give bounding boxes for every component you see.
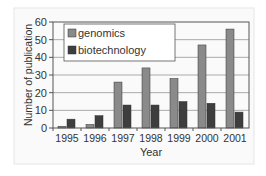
- y-tick-label: 30: [35, 69, 47, 81]
- y-tick-label: 50: [35, 34, 47, 46]
- legend-label-biotechnology: biotechnology: [78, 44, 146, 56]
- legend-label-genomics: genomics: [78, 27, 126, 39]
- bar-biotechnology-1996: [95, 116, 103, 128]
- x-tick-label: 1997: [111, 132, 135, 144]
- bar-genomics-1997: [114, 82, 122, 128]
- bar-biotechnology-1998: [151, 105, 159, 128]
- x-tick-label: 1998: [139, 132, 163, 144]
- bar-biotechnology-1995: [67, 119, 75, 128]
- y-tick-label: 60: [35, 16, 47, 28]
- x-tick-label: 1999: [167, 132, 191, 144]
- bar-biotechnology-1999: [179, 102, 187, 129]
- bar-genomics-1999: [170, 79, 178, 128]
- bar-genomics-2000: [198, 45, 206, 128]
- bar-genomics-1998: [142, 68, 150, 128]
- legend-swatch-genomics: [68, 29, 76, 37]
- y-tick-label: 0: [41, 122, 47, 134]
- x-tick-label: 1995: [55, 132, 79, 144]
- bar-biotechnology-2001: [235, 112, 243, 128]
- bar-genomics-2001: [226, 29, 234, 128]
- y-axis-label: Number of publication: [22, 24, 34, 126]
- x-tick-label: 1996: [83, 132, 107, 144]
- x-tick-label: 2001: [223, 132, 247, 144]
- bar-biotechnology-2000: [207, 103, 215, 128]
- bar-genomics-1996: [86, 124, 94, 128]
- y-tick-label: 10: [35, 104, 47, 116]
- x-axis-label: Year: [140, 146, 163, 158]
- y-tick-label: 40: [35, 51, 47, 63]
- y-tick-label: 20: [35, 87, 47, 99]
- legend-swatch-biotechnology: [68, 46, 76, 54]
- x-tick-label: 2000: [195, 132, 219, 144]
- bar-biotechnology-1997: [123, 105, 131, 128]
- bar-chart: 0102030405060 19951996199719981999200020…: [0, 0, 266, 176]
- legend: genomicsbiotechnology: [64, 24, 175, 61]
